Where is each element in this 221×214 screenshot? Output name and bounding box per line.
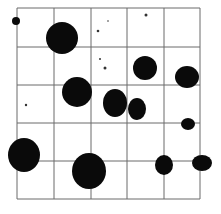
colony-plate-image — [0, 0, 221, 214]
colony — [72, 153, 106, 189]
colony — [8, 138, 40, 172]
colony — [155, 155, 173, 175]
speck — [99, 58, 101, 60]
speck — [97, 30, 100, 33]
colony — [103, 89, 127, 117]
colony — [181, 118, 195, 130]
speck — [104, 67, 107, 70]
speck — [145, 14, 148, 17]
speck — [107, 20, 109, 22]
colony — [62, 77, 92, 107]
colony — [175, 66, 199, 88]
colony — [192, 155, 212, 171]
colony-grid-canvas — [0, 0, 221, 214]
colony — [46, 22, 78, 54]
colony — [12, 17, 20, 25]
speck — [25, 104, 27, 106]
colony — [128, 98, 146, 120]
colony — [133, 56, 157, 80]
